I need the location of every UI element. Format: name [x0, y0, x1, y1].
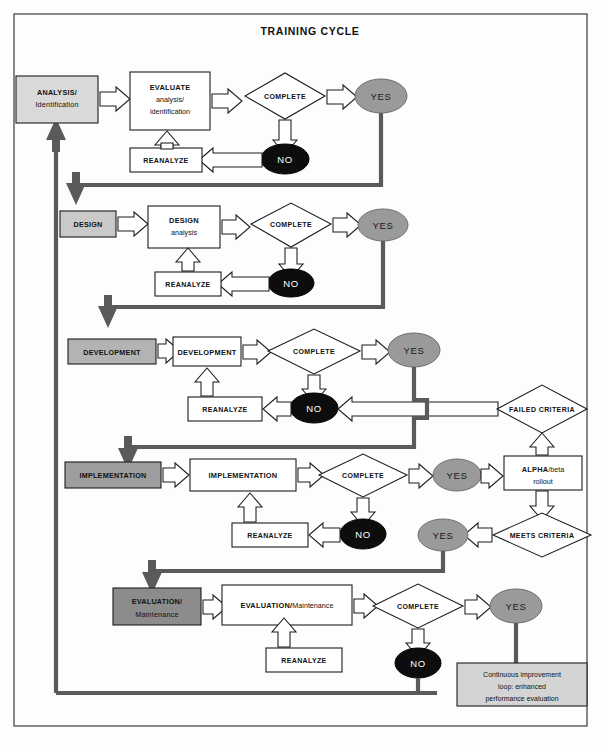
yes-label-implementation: YES — [447, 470, 468, 481]
arrow-complete-to-yes-development — [362, 340, 390, 364]
arrow-complete-to-yes-design — [333, 213, 361, 237]
yes-label-development: YES — [404, 345, 425, 356]
note-line1: Continuous improvement — [483, 671, 561, 679]
arrow-no-to-reanalyze-analysis — [199, 148, 262, 172]
arrow-evaluate-to-complete — [212, 89, 242, 113]
stage-label-development: DEVELOPMENT — [83, 348, 141, 357]
reanalyze-label-implementation: REANALYZE — [247, 532, 292, 539]
yes-flow-design-arrowhead — [98, 295, 118, 328]
process-label-evaluate-line3: identification — [150, 107, 190, 116]
note-line3: performance evaluation — [485, 695, 558, 703]
stage-label-implementation: IMPLEMENTATION — [79, 471, 146, 480]
arrow-complete-to-yes-evaluation — [465, 595, 491, 619]
decision-label-complete-evaluation: COMPLETE — [397, 603, 439, 610]
arrow-reanalyze-stem-analysis — [161, 143, 173, 149]
decision-label-complete-implementation: COMPLETE — [342, 472, 384, 479]
arrow-reanalyze-to-development-up — [195, 368, 219, 396]
reanalyze-label-design: REANALYZE — [165, 281, 210, 288]
process-label-development: DEVELOPMENT — [177, 348, 236, 357]
no-label-implementation: NO — [355, 529, 370, 540]
decision-label-failed-criteria: FAILED CRITERIA — [509, 406, 575, 413]
stage-label-evaluation-line2: Maintenance — [135, 610, 178, 619]
stage-box-evaluation[interactable] — [113, 588, 201, 625]
no-label-evaluation: NO — [410, 658, 425, 669]
arrow-rollout-to-failed-criteria — [530, 433, 554, 455]
yes-label-evaluation: YES — [506, 601, 527, 612]
stage-label-evaluation-line1: EVALUATION/ — [132, 597, 182, 606]
arrow-analysis-to-evaluate — [100, 87, 130, 111]
arrow-yes-to-alpha-rollout — [481, 464, 503, 488]
arrow-development-to-complete — [243, 340, 271, 364]
decision-label-complete-design: COMPLETE — [270, 221, 312, 228]
page-title: TRAINING CYCLE — [260, 25, 359, 37]
yes-flow-analysis-down — [76, 113, 381, 185]
yes-label-analysis: YES — [371, 91, 392, 102]
rollout-label-line1: ALPHA/beta — [522, 465, 565, 474]
stage-label-design: DESIGN — [73, 220, 102, 229]
yes-label-design: YES — [373, 220, 394, 231]
arrow-no-to-reanalyze-design — [218, 272, 269, 296]
arrow-no-to-reanalyze-implementation — [309, 523, 340, 547]
arrow-design-to-design-analysis — [118, 212, 148, 236]
yes-label-meets-criteria: YES — [433, 530, 454, 541]
decision-label-complete-analysis: COMPLETE — [264, 93, 306, 100]
rollout-label-line2: rollout — [533, 477, 553, 486]
stage-label-analysis-line1: ANALYSIS/ — [37, 88, 77, 97]
no-label-design: NO — [283, 278, 298, 289]
yes-flow-design-down — [108, 241, 383, 307]
process-label-design-line2: analysis — [171, 228, 197, 237]
arrow-implementation-to-process — [163, 463, 189, 487]
arrow-reanalyze-to-implementation-up — [238, 493, 262, 522]
no-label-development: NO — [306, 403, 321, 414]
reanalyze-label-analysis: REANALYZE — [143, 157, 188, 164]
process-label-design-line1: DESIGN — [169, 216, 199, 225]
process-box-design-analysis[interactable] — [148, 206, 220, 248]
no-label-analysis: NO — [277, 154, 292, 165]
diagram-canvas: TRAINING CYCLE ANALYSIS/ Identification … — [0, 0, 601, 752]
reanalyze-label-evaluation: REANALYZE — [281, 657, 326, 664]
stage-label-analysis-line2: Identification — [35, 100, 78, 109]
reanalyze-label-development: REANALYZE — [202, 406, 247, 413]
process-label-evaluation: EVALUATION/Maintenance — [241, 601, 334, 610]
process-label-evaluate-line1: EVALUATE — [150, 83, 191, 92]
arrow-no-to-reanalyze-development — [263, 397, 291, 421]
meets-yes-flow-down — [152, 551, 443, 571]
process-label-evaluate-line2: analysis/ — [156, 95, 184, 104]
arrow-reanalyze-to-design-up — [176, 248, 200, 271]
arrow-design-to-complete — [222, 215, 250, 239]
arrow-complete-to-yes-analysis — [327, 85, 357, 109]
decision-label-meets-criteria: MEETS CRITERIA — [510, 532, 575, 539]
yes-flow-analysis-arrowhead — [66, 172, 86, 205]
process-label-implementation: IMPLEMENTATION — [209, 471, 278, 480]
note-line2: loop: enhanced — [498, 683, 546, 691]
arrow-complete-to-yes-implementation — [409, 464, 433, 488]
decision-label-complete-development: COMPLETE — [293, 348, 335, 355]
